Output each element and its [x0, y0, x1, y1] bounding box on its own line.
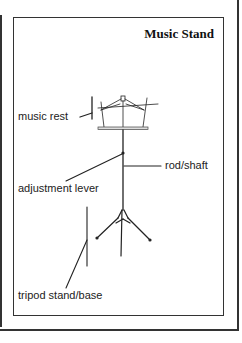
label-rod-shaft: rod/shaft	[165, 159, 208, 171]
label-music-rest: music rest	[18, 110, 68, 122]
adjustment-lever-leader	[66, 154, 122, 181]
music-rest-drawing	[98, 96, 158, 128]
label-tripod-stand-base: tripod stand/base	[18, 289, 102, 301]
music-rest-shelf	[98, 127, 148, 130]
music-rest-leader	[80, 113, 92, 117]
tripod-base-leader	[66, 240, 87, 288]
label-adjustment-lever: adjustment lever	[18, 182, 99, 194]
tripod-base-drawing	[96, 210, 151, 256]
